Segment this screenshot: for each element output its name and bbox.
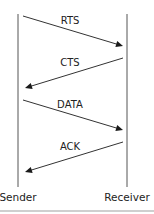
message-data: DATA (23, 99, 123, 131)
message-ack: ACK (25, 141, 123, 173)
arrowhead-icon (115, 41, 123, 47)
actor-label-receiver: Receiver (104, 191, 150, 203)
actor-label-sender: Sender (0, 191, 37, 203)
arrowhead-icon (25, 83, 33, 89)
arrowhead-icon (25, 167, 33, 173)
message-label: DATA (57, 99, 83, 110)
message-label: RTS (61, 15, 80, 26)
message-cts: CTS (25, 57, 123, 89)
arrowhead-icon (115, 125, 123, 131)
message-rts: RTS (23, 15, 123, 47)
sequence-diagram: RTSCTSDATAACK Sender Receiver (0, 0, 154, 214)
message-label: CTS (60, 57, 79, 68)
message-label: ACK (60, 141, 81, 152)
messages-group: RTSCTSDATAACK (23, 15, 123, 173)
